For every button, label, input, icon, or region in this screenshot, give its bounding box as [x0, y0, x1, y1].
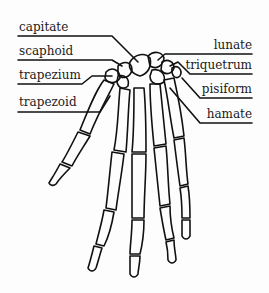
middle-metacarpal [132, 88, 146, 152]
ring-proximal-phalanx [154, 146, 170, 206]
middle-distal-phalanx [130, 256, 140, 277]
label-pisiform: pisiform [202, 82, 252, 96]
little-metacarpal [164, 78, 184, 138]
label-scaphoid: scaphoid [19, 44, 73, 58]
label-hamate: hamate [207, 107, 252, 121]
label-trapezium: trapezium [19, 68, 81, 82]
label-lunate: lunate [214, 38, 252, 52]
thumb-proximal-phalanx [62, 132, 90, 166]
index-proximal-phalanx [106, 152, 124, 210]
ring-distal-phalanx [166, 240, 176, 263]
leader-scaphoid [18, 60, 122, 66]
middle-middle-phalanx [130, 220, 144, 254]
little-distal-phalanx [182, 220, 190, 239]
index-middle-phalanx [96, 210, 114, 246]
little-middle-phalanx [180, 186, 190, 218]
ring-middle-phalanx [160, 206, 174, 240]
little-proximal-phalanx [174, 138, 188, 186]
carpal-capitate [129, 55, 150, 76]
index-distal-phalanx [88, 246, 102, 271]
ring-metacarpal [150, 84, 166, 146]
middle-proximal-phalanx [132, 154, 146, 218]
thumb-metacarpal [80, 80, 114, 134]
label-trapezoid: trapezoid [19, 95, 77, 109]
hand-bones-diagram: capitate scaphoid trapezium trapezoid lu… [0, 0, 269, 293]
label-triquetrum: triquetrum [185, 58, 252, 72]
carpal-hamate [150, 70, 164, 84]
thumb-distal-phalanx [49, 164, 70, 185]
label-capitate: capitate [19, 20, 68, 34]
index-metacarpal [114, 88, 130, 152]
